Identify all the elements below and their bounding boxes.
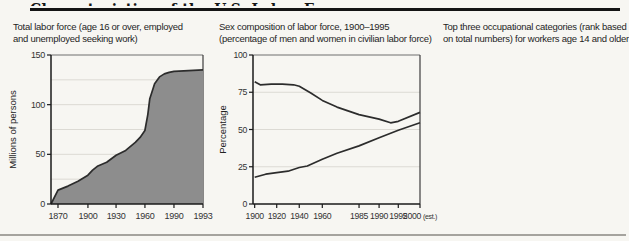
y-tick-labels: 050100150 — [31, 50, 51, 209]
caption-line: and unemployed seeking work) — [13, 33, 183, 45]
x-tick-labels: 187019001930196019901993 — [49, 204, 213, 221]
svg-text:50: 50 — [36, 149, 46, 159]
line-men — [255, 82, 420, 123]
total-labor-force-caption: Total labor force (age 16 or over, emplo… — [13, 21, 183, 45]
sex-composition-caption: Sex composition of labor force, 1900–199… — [219, 21, 432, 45]
svg-text:1960: 1960 — [313, 211, 332, 221]
y-axis-title: Percentage — [217, 105, 228, 154]
svg-text:25: 25 — [238, 162, 248, 172]
caption-line: Sex composition of labor force, 1900–199… — [219, 21, 432, 33]
svg-text:1940: 1940 — [290, 211, 309, 221]
total-labor-force-chart: 050100150187019001930196019901993Million… — [0, 48, 212, 230]
svg-text:1870: 1870 — [49, 211, 68, 221]
total-labor-force-chart-svg: 050100150187019001930196019901993Million… — [0, 48, 212, 230]
caption-line: (percentage of men and women in civilian… — [219, 33, 432, 45]
caption-line: Total labor force (age 16 or over, emplo… — [13, 21, 183, 33]
svg-text:0: 0 — [40, 199, 45, 209]
sex-composition-chart-svg: 0255075100190019201940196019851990199520… — [215, 48, 455, 230]
svg-text:1990: 1990 — [165, 211, 184, 221]
line-women — [255, 123, 420, 177]
svg-text:1900: 1900 — [246, 211, 265, 221]
svg-text:75: 75 — [238, 87, 248, 97]
svg-text:1993: 1993 — [194, 211, 213, 221]
x-tick-labels: 19001920194019601985199019952000(est.) — [246, 204, 438, 221]
page-title-text: Characteristics of the U.S. Labor Force — [30, 1, 349, 6]
caption-line: Top three occupational categories (rank … — [443, 21, 629, 33]
gridlines — [253, 92, 420, 167]
y-tick-labels: 0255075100 — [233, 50, 253, 209]
svg-text:1990: 1990 — [370, 211, 389, 221]
svg-text:100: 100 — [31, 100, 45, 110]
svg-text:100: 100 — [233, 50, 247, 60]
page-title: Characteristics of the U.S. Labor Force — [30, 0, 349, 6]
svg-text:150: 150 — [31, 50, 45, 60]
svg-text:1930: 1930 — [107, 211, 126, 221]
caption-line: on total numbers) for workers age 14 and… — [443, 33, 629, 45]
sex-composition-chart: 0255075100190019201940196019851990199520… — [215, 48, 455, 230]
svg-text:0: 0 — [242, 199, 247, 209]
svg-text:1985: 1985 — [350, 211, 369, 221]
svg-text:1900: 1900 — [79, 211, 98, 221]
title-divider — [30, 8, 620, 11]
svg-text:1960: 1960 — [136, 211, 155, 221]
bottom-divider — [0, 234, 626, 236]
svg-text:50: 50 — [238, 125, 248, 135]
svg-text:1920: 1920 — [268, 211, 287, 221]
y-axis-title: Millions of persons — [7, 90, 18, 169]
occupations-caption: Top three occupational categories (rank … — [443, 21, 629, 45]
svg-text:2000(est.): 2000(est.) — [403, 211, 437, 221]
